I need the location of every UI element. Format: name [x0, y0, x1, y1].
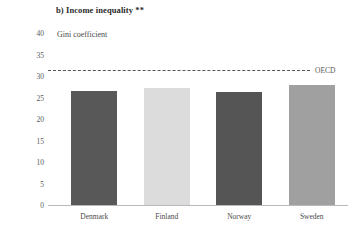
y-axis-tick-35: 35: [22, 50, 44, 59]
oecd-reference-line: [48, 70, 310, 71]
y-axis-tick-20: 20: [22, 115, 44, 124]
y-axis-tick-15: 15: [22, 136, 44, 145]
y-axis-tick-5: 5: [22, 179, 44, 188]
y-axis-tick-25: 25: [22, 93, 44, 102]
chart-title: b) Income inequality **: [56, 5, 144, 15]
chart-figure: b) Income inequality ** Gini coefficient…: [0, 0, 356, 236]
x-axis-label-sweden: Sweden: [300, 212, 324, 221]
y-axis-tick-10: 10: [22, 158, 44, 167]
y-axis-tick-30: 30: [22, 72, 44, 81]
y-axis-tick-0: 0: [22, 201, 44, 210]
x-axis-label-finland: Finland: [155, 212, 178, 221]
x-axis-label-denmark: Denmark: [80, 212, 108, 221]
oecd-reference-line-label: OECD: [315, 65, 335, 74]
bar-denmark: [71, 91, 117, 205]
bar-sweden: [289, 85, 335, 205]
bar-norway: [216, 92, 262, 205]
bar-finland: [144, 88, 190, 205]
y-axis-tick-40: 40: [22, 29, 44, 38]
y-axis-tick-labels: 4035302520151050: [0, 0, 44, 236]
x-axis-label-norway: Norway: [227, 212, 251, 221]
bars-layer: [48, 28, 348, 206]
